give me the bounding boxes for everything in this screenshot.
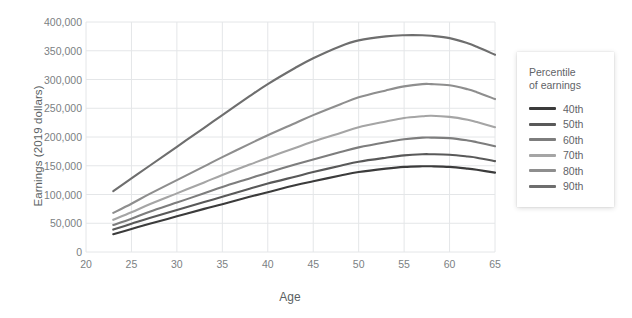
legend-swatch-50th — [529, 123, 556, 126]
y-tick-label: 300,000 — [22, 74, 82, 86]
y-tick-label: 250,000 — [22, 102, 82, 114]
x-tick-label: 25 — [111, 258, 151, 270]
legend-label-50th: 50th — [563, 118, 583, 130]
x-tick-label: 30 — [157, 258, 197, 270]
legend-item-70th[interactable]: 70th — [529, 148, 604, 164]
x-axis-tick-labels: 20253035404550556065 — [86, 258, 495, 274]
y-tick-label: 150,000 — [22, 160, 82, 172]
legend-label-60th: 60th — [563, 134, 583, 146]
y-axis-tick-labels: 050,000100,000150,000200,000250,000300,0… — [18, 22, 82, 252]
x-tick-label: 60 — [430, 258, 470, 270]
x-axis-title: Age — [75, 290, 505, 304]
legend-label-90th: 90th — [563, 180, 583, 192]
data-lines — [113, 35, 495, 234]
y-tick-label: 100,000 — [22, 189, 82, 201]
chart-svg — [86, 22, 495, 252]
x-tick-label: 65 — [475, 258, 515, 270]
earnings-by-age-chart: Earnings (2019 dollars) 050,000100,00015… — [0, 0, 632, 318]
legend-title-line-2: of earnings — [529, 79, 601, 92]
legend-swatch-60th — [529, 138, 556, 141]
x-tick-label: 50 — [339, 258, 379, 270]
legend-item-80th[interactable]: 80th — [529, 163, 604, 179]
legend-item-60th[interactable]: 60th — [529, 132, 604, 148]
legend: Percentile of earnings 40th50th60th70th8… — [517, 52, 614, 207]
x-tick-label: 55 — [384, 258, 424, 270]
legend-entries: 40th50th60th70th80th90th — [529, 101, 604, 194]
legend-swatch-90th — [529, 185, 556, 188]
legend-item-50th[interactable]: 50th — [529, 117, 604, 133]
x-tick-label: 40 — [248, 258, 288, 270]
x-tick-label: 20 — [66, 258, 106, 270]
series-line-80th — [113, 84, 495, 213]
legend-swatch-40th — [529, 107, 556, 110]
legend-swatch-70th — [529, 154, 556, 157]
legend-title-line-1: Percentile — [529, 66, 601, 79]
y-tick-label: 350,000 — [22, 45, 82, 57]
series-line-40th — [113, 166, 495, 234]
y-tick-label: 0 — [22, 246, 82, 258]
legend-item-90th[interactable]: 90th — [529, 179, 604, 195]
legend-title: Percentile of earnings — [529, 66, 601, 92]
legend-label-40th: 40th — [563, 103, 583, 115]
legend-label-80th: 80th — [563, 165, 583, 177]
y-tick-label: 400,000 — [22, 16, 82, 28]
legend-label-70th: 70th — [563, 149, 583, 161]
x-tick-label: 35 — [202, 258, 242, 270]
y-tick-label: 50,000 — [22, 217, 82, 229]
y-tick-label: 200,000 — [22, 131, 82, 143]
legend-swatch-80th — [529, 169, 556, 172]
x-tick-label: 45 — [293, 258, 333, 270]
legend-item-40th[interactable]: 40th — [529, 101, 604, 117]
plot-area — [86, 22, 495, 252]
series-line-90th — [113, 35, 495, 191]
